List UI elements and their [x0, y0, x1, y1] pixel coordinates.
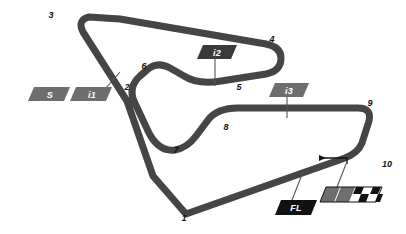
circuit-map: 1 2 3 4 5 6 7 8 9 10 S i1: [0, 0, 406, 234]
corner-label-3: 3: [48, 10, 53, 20]
circuit-map-svg: 1 2 3 4 5 6 7 8 9 10 S i1: [0, 0, 406, 234]
corner-label-10: 10: [382, 159, 392, 169]
fastest-lap-badge[interactable]: FL: [275, 200, 317, 215]
leader-line-finish: [337, 164, 346, 187]
fastest-lap-badge-label: FL: [290, 203, 302, 213]
intermediate-2-badge[interactable]: i2: [197, 45, 237, 59]
start-finish-checkered-flag[interactable]: [320, 187, 383, 202]
intermediate-1-badge[interactable]: i1: [70, 87, 112, 101]
start-badge-label: S: [47, 90, 53, 100]
intermediate-3-badge[interactable]: i3: [269, 83, 309, 97]
corner-label-5: 5: [236, 82, 242, 92]
intermediate-3-badge-label: i3: [285, 86, 293, 96]
corner-label-4: 4: [268, 34, 274, 44]
intermediate-2-badge-label: i2: [213, 48, 221, 58]
intermediate-1-badge-label: i1: [88, 90, 96, 100]
corner-label-9: 9: [367, 98, 372, 108]
corner-label-1: 1: [181, 213, 186, 223]
start-badge[interactable]: S: [28, 87, 70, 101]
corner-label-2: 2: [123, 82, 129, 92]
corner-label-8: 8: [223, 122, 228, 132]
